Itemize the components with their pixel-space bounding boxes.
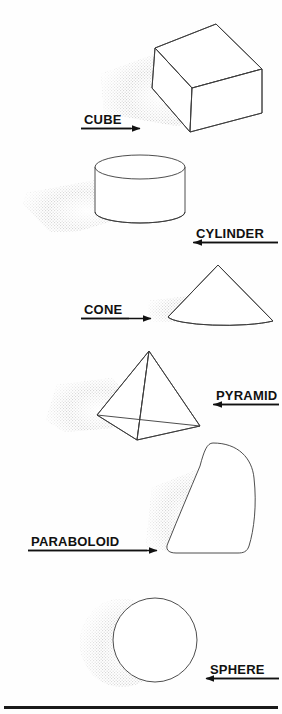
bottom-divider-rule [4, 706, 278, 709]
sphere-solid [113, 598, 197, 682]
figure-canvas: CUBE CYLINDER [0, 0, 282, 714]
solid-group-paraboloid: PARABOLOID [28, 443, 255, 553]
solid-group-sphere: SPHERE [80, 598, 279, 687]
solid-group-cube: CUBE [81, 24, 262, 132]
label-cube: CUBE [84, 112, 122, 127]
label-sphere: SPHERE [210, 662, 265, 677]
label-paraboloid: PARABOLOID [31, 534, 119, 549]
solid-group-cone: CONE [81, 265, 273, 325]
paraboloid-label-group: PARABOLOID [28, 534, 157, 551]
cylinder-label-group: CYLINDER [193, 226, 278, 243]
cone-solid [168, 265, 273, 325]
geometric-solids-figure: CUBE CYLINDER [0, 0, 282, 714]
solid-group-cylinder: CYLINDER [23, 155, 278, 243]
sphere-label-group: SPHERE [206, 662, 279, 679]
label-pyramid: PYRAMID [216, 388, 277, 403]
solid-group-pyramid: PYRAMID [46, 351, 279, 440]
cone-label-group: CONE [81, 302, 151, 319]
cylinder-solid [95, 155, 185, 223]
label-cone: CONE [84, 302, 122, 317]
label-cylinder: CYLINDER [196, 226, 264, 241]
pyramid-label-group: PYRAMID [213, 388, 279, 405]
